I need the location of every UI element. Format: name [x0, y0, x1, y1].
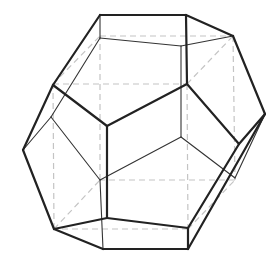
back-edge [100, 180, 103, 249]
front-edge [233, 36, 265, 114]
cube-edge [187, 84, 188, 229]
back-edge [181, 137, 235, 178]
front-edge [187, 84, 239, 144]
cube-dashed-edges [53, 36, 235, 229]
cube-edge [53, 84, 54, 229]
front-edge [53, 85, 107, 126]
visible-front-edges [23, 15, 265, 249]
front-edge [107, 84, 187, 126]
back-edge [100, 38, 181, 46]
front-edge [54, 229, 103, 249]
front-edge [188, 144, 239, 228]
front-edge [107, 218, 188, 228]
front-edge [188, 114, 265, 249]
front-edge [23, 85, 53, 150]
back-edge [51, 117, 100, 180]
front-edge [186, 15, 233, 36]
front-edge [186, 15, 187, 84]
front-edge [54, 218, 107, 229]
dodecahedron-diagram [0, 0, 277, 264]
back-edge [100, 137, 181, 180]
cube-edge [233, 36, 235, 180]
front-edge [23, 150, 54, 229]
front-edge [239, 114, 265, 144]
